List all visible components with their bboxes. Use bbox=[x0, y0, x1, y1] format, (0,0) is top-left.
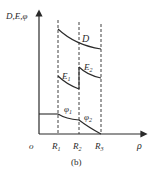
label-e1: E1 bbox=[61, 71, 71, 82]
label-phi1: φ1 bbox=[64, 104, 72, 115]
label-r3: R3 bbox=[94, 141, 104, 152]
label-e2: E2 bbox=[83, 62, 93, 73]
label-r1: R1 bbox=[51, 141, 61, 152]
x-axis-label: ρ bbox=[136, 140, 142, 151]
figure-caption: (b) bbox=[71, 157, 82, 167]
curve-d bbox=[58, 29, 101, 49]
label-r2: R2 bbox=[72, 141, 82, 152]
label-phi2: φ2 bbox=[84, 112, 92, 123]
label-d: D bbox=[81, 33, 90, 44]
y-axis-label: D,E,φ bbox=[5, 11, 27, 21]
diagram-canvas: D,E,φ ρ o D E1 E2 φ1 φ2 R1 R2 R3 (b) bbox=[0, 0, 152, 176]
origin-label: o bbox=[29, 141, 34, 151]
